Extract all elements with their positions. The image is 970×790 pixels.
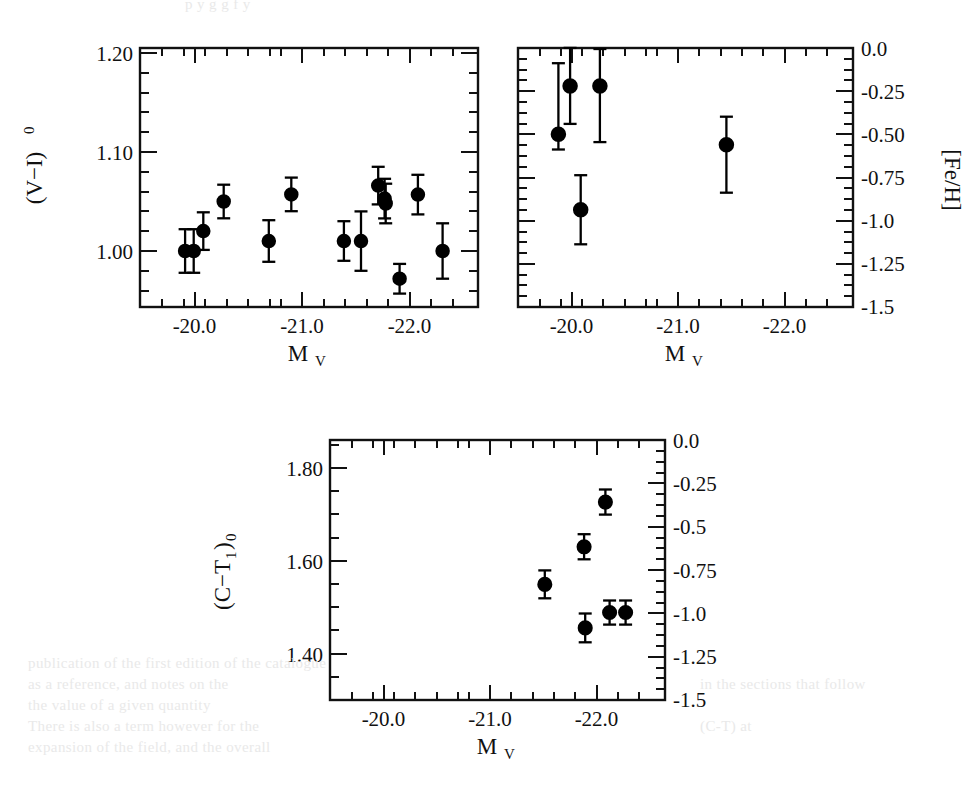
y-tick-label: 0.0 xyxy=(861,37,887,61)
y-tick-label: -1.25 xyxy=(861,252,905,276)
x-tick-labels: -20.0 -21.0 -22.0 xyxy=(173,314,432,338)
data-point xyxy=(197,212,210,250)
data-point xyxy=(599,490,612,515)
y-tick-label: -0.75 xyxy=(861,166,905,190)
data-point xyxy=(436,223,449,278)
plot-frame xyxy=(330,440,665,700)
panel-v-minus-i: 1.20 1.10 1.00 -20.0 -21.0 -22.0 M V (V−… xyxy=(0,20,500,370)
x-axis-title-main: M xyxy=(288,341,308,366)
x-axis-title-sub: V xyxy=(692,353,703,369)
data-point xyxy=(262,220,275,262)
panel-c-minus-t1: 1.80 1.60 1.40 0.0 -0.25 -0.5 -0.75 -1.0… xyxy=(180,410,740,790)
panel-c-minus-t1-svg: 1.80 1.60 1.40 0.0 -0.25 -0.5 -0.75 -1.0… xyxy=(180,410,740,790)
y-tick-label: -1.0 xyxy=(861,209,894,233)
data-series xyxy=(538,490,632,643)
x-tick-label: -21.0 xyxy=(656,314,700,338)
x-axis-title: M V xyxy=(477,734,515,762)
y-tick-label: -0.5 xyxy=(673,515,706,539)
x-tick-label: -22.0 xyxy=(575,707,619,731)
data-point xyxy=(355,211,368,270)
data-point xyxy=(579,614,592,643)
y-tick-label: 1.10 xyxy=(96,141,133,165)
y-tick-label: 1.80 xyxy=(286,457,323,481)
y-tick-labels-right: 0.0 -0.25 -0.5 -0.75 -1.0 -1.25 -1.5 xyxy=(673,429,717,712)
y-tick-label: -1.5 xyxy=(673,688,706,712)
y-axis-ticks-left xyxy=(330,445,347,677)
x-axis-ticks xyxy=(540,48,828,307)
data-point xyxy=(574,175,587,244)
y-tick-label: -0.50 xyxy=(861,123,905,147)
data-point xyxy=(564,48,577,124)
x-axis-title: M V xyxy=(665,341,703,369)
x-tick-label: -22.0 xyxy=(763,314,807,338)
x-tick-label: -20.0 xyxy=(362,707,406,731)
data-series xyxy=(179,167,450,294)
astronomy-figure: p y g g f y xyxy=(0,0,970,790)
ghost-text-top: p y g g f y xyxy=(185,0,251,13)
data-point xyxy=(552,63,565,149)
data-point xyxy=(593,49,606,142)
y-tick-labels: 1.20 1.10 1.00 xyxy=(96,42,133,264)
data-series xyxy=(552,48,733,244)
data-point xyxy=(393,264,406,294)
y-axis-title-main: (C−T xyxy=(210,560,235,610)
y-tick-labels-left: 1.80 1.60 1.40 xyxy=(286,457,323,667)
x-tick-label: -22.0 xyxy=(388,314,432,338)
x-axis-title-sub: V xyxy=(315,353,326,369)
y-tick-label: -1.5 xyxy=(861,295,894,319)
data-point xyxy=(285,178,298,212)
y-axis-title-sub2: 0 xyxy=(223,534,239,542)
y-tick-labels: 0.0 -0.25 -0.50 -0.75 -1.0 -1.25 -1.5 xyxy=(861,37,905,319)
x-axis-title-main: M xyxy=(477,734,497,759)
y-tick-label: 1.60 xyxy=(286,550,323,574)
panel-feh-top: 0.0 -0.25 -0.50 -0.75 -1.0 -1.25 -1.5 -2… xyxy=(490,20,970,370)
panel-feh-top-svg: 0.0 -0.25 -0.50 -0.75 -1.0 -1.25 -1.5 -2… xyxy=(490,20,970,370)
y-tick-label: -0.25 xyxy=(861,80,905,104)
y-tick-label: 1.40 xyxy=(286,643,323,667)
y-axis-title-text: [Fe/H] xyxy=(940,149,965,210)
x-tick-label: -21.0 xyxy=(280,314,324,338)
x-tick-label: -21.0 xyxy=(468,707,512,731)
y-tick-label: 1.00 xyxy=(96,240,133,264)
y-axis-title-main: (V−I) xyxy=(22,152,47,205)
data-point xyxy=(538,570,551,598)
data-point xyxy=(337,221,350,261)
x-axis-ticks xyxy=(162,48,452,307)
data-point xyxy=(578,534,591,559)
y-tick-label: -1.0 xyxy=(673,602,706,626)
x-axis-title-main: M xyxy=(665,341,685,366)
x-tick-label: -20.0 xyxy=(550,314,594,338)
y-tick-label: -0.25 xyxy=(673,472,717,496)
y-tick-label: -0.75 xyxy=(673,559,717,583)
x-axis-title: M V xyxy=(288,341,326,369)
y-axis-title-sub1: 1 xyxy=(223,552,239,560)
x-tick-label: -20.0 xyxy=(173,314,217,338)
data-point xyxy=(411,175,424,215)
y-axis-title-left: (C−T 1 ) 0 xyxy=(210,534,239,611)
y-axis-title-sub: 0 xyxy=(21,127,37,135)
y-tick-label: 0.0 xyxy=(673,429,699,453)
panel-v-minus-i-svg: 1.20 1.10 1.00 -20.0 -21.0 -22.0 M V (V−… xyxy=(0,20,500,370)
data-point xyxy=(217,185,230,219)
y-tick-label: -1.25 xyxy=(673,645,717,669)
y-axis-title-mid: ) xyxy=(210,542,235,550)
x-axis-title-sub: V xyxy=(504,746,515,762)
x-tick-labels: -20.0 -21.0 -22.0 xyxy=(550,314,807,338)
y-axis-ticks-right xyxy=(648,440,665,700)
x-tick-labels: -20.0 -21.0 -22.0 xyxy=(362,707,619,731)
data-point xyxy=(603,601,616,625)
plot-frame xyxy=(140,48,478,307)
y-axis-title-feh: [Fe/H] xyxy=(940,149,965,210)
y-axis-title: (V−I) 0 xyxy=(21,127,47,205)
data-point xyxy=(619,601,632,625)
data-point xyxy=(720,117,733,193)
x-axis-ticks xyxy=(352,440,640,700)
y-tick-label: 1.20 xyxy=(96,42,133,66)
